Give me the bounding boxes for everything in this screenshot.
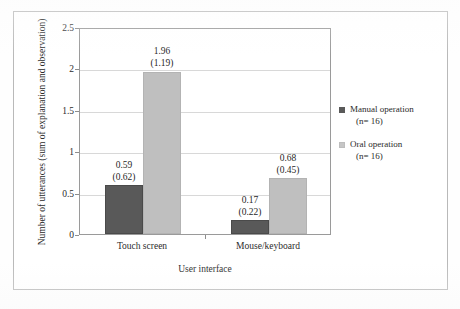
figure-bar-chart: Number of utterances (sum of explanation… [0, 0, 460, 309]
datalabel-mouse-keyboard-manual: 0.17 (0.22) [222, 195, 278, 218]
y-tick-mark [75, 235, 79, 236]
gridline-2 [80, 70, 330, 71]
y-tick-label-0-5: 0.5 [44, 189, 74, 199]
y-axis-title: Number of utterances (sum of explanation… [30, 28, 54, 235]
datalabel-value: 0.68 [260, 153, 316, 165]
bar-mouse-keyboard-manual[interactable] [231, 220, 269, 234]
legend-entry-oral-operation[interactable]: Oral operation (n= 16) [339, 139, 443, 162]
legend-sublabel: (n= 16) [350, 151, 443, 163]
datalabel-sd: (0.62) [96, 172, 152, 184]
gridline-1-5 [80, 112, 330, 113]
bar-touch-screen-oral[interactable] [143, 72, 181, 234]
legend-entry-manual-operation[interactable]: Manual operation (n= 16) [339, 104, 443, 127]
figure-frame: Number of utterances (sum of explanation… [13, 11, 448, 290]
datalabel-sd: (0.45) [260, 165, 316, 177]
bar-touch-screen-manual[interactable] [105, 185, 143, 234]
datalabel-touch-screen-oral: 1.96 (1.19) [134, 46, 190, 69]
legend-swatch-icon [339, 107, 345, 113]
datalabel-touch-screen-manual: 0.59 (0.62) [96, 160, 152, 183]
x-axis-title: User interface [79, 264, 331, 274]
datalabel-value: 0.17 [222, 195, 278, 207]
legend: Manual operation (n= 16) Oral operation … [339, 104, 443, 174]
datalabel-mouse-keyboard-oral: 0.68 (0.45) [260, 153, 316, 176]
datalabel-value: 0.59 [96, 160, 152, 172]
legend-sublabel: (n= 16) [350, 116, 443, 128]
y-axis-title-line2: (sum of explanation and observation) [37, 18, 47, 160]
x-tick-label-touch-screen: Touch screen [92, 241, 192, 252]
y-tick-label-1: 1 [44, 147, 74, 157]
x-tick-label-mouse-keyboard: Mouse/keyboard [218, 241, 318, 252]
datalabel-sd: (1.19) [134, 58, 190, 70]
y-tick-label-2: 2 [44, 64, 74, 74]
datalabel-sd: (0.22) [222, 207, 278, 219]
legend-label: Oral operation [350, 139, 443, 151]
x-tick-mark [205, 235, 206, 239]
plot-area: 0.59 (0.62) 1.96 (1.19) 0.17 (0.22) 0.68… [79, 28, 331, 235]
datalabel-value: 1.96 [134, 46, 190, 58]
y-tick-label-0: 0 [44, 230, 74, 240]
legend-swatch-icon [339, 142, 345, 148]
y-tick-label-1-5: 1.5 [44, 106, 74, 116]
legend-label: Manual operation [350, 104, 443, 116]
y-tick-label-2-5: 2.5 [44, 23, 74, 33]
